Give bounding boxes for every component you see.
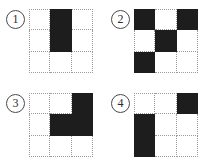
grid-cell-empty xyxy=(29,9,50,30)
grid-cell-empty xyxy=(29,93,50,114)
grid-cell-empty xyxy=(72,52,93,73)
option-panel-2[interactable]: 2 xyxy=(105,0,210,84)
grid-cell-empty xyxy=(72,9,93,30)
pattern-grid-3 xyxy=(29,93,93,157)
grid-cell-empty xyxy=(50,52,71,73)
grid-cell-filled xyxy=(72,93,93,114)
grid-cell-filled xyxy=(50,30,71,51)
option-number-1: 1 xyxy=(6,10,25,29)
answer-options-sheet: 1 2 3 4 xyxy=(0,0,210,168)
grid-cell-filled xyxy=(177,93,198,114)
grid-cell-filled xyxy=(134,136,155,157)
grid-cell-empty xyxy=(177,52,198,73)
grid-cell-filled xyxy=(72,114,93,135)
grid-cell-filled xyxy=(134,114,155,135)
grid-cell-empty xyxy=(177,114,198,135)
grid-cell-empty xyxy=(29,136,50,157)
grid-cell-empty xyxy=(177,136,198,157)
option-number-4: 4 xyxy=(111,94,130,113)
grid-cell-filled xyxy=(155,30,176,51)
grid-cell-empty xyxy=(50,136,71,157)
option-panel-3[interactable]: 3 xyxy=(0,84,105,168)
grid-cell-empty xyxy=(155,52,176,73)
grid-cell-filled xyxy=(134,9,155,30)
option-number-3: 3 xyxy=(6,94,25,113)
option-panel-4[interactable]: 4 xyxy=(105,84,210,168)
pattern-grid-4 xyxy=(134,93,198,157)
pattern-grid-1 xyxy=(29,9,93,73)
grid-cell-empty xyxy=(29,30,50,51)
grid-cell-empty xyxy=(72,30,93,51)
option-number-2: 2 xyxy=(111,10,130,29)
grid-cell-empty xyxy=(29,114,50,135)
grid-cell-empty xyxy=(29,52,50,73)
grid-cell-empty xyxy=(177,30,198,51)
grid-cell-empty xyxy=(72,136,93,157)
grid-cell-empty xyxy=(50,93,71,114)
grid-cell-filled xyxy=(177,9,198,30)
grid-cell-filled xyxy=(134,52,155,73)
grid-cell-empty xyxy=(155,136,176,157)
grid-cell-filled xyxy=(50,114,71,135)
grid-cell-empty xyxy=(134,30,155,51)
option-panel-1[interactable]: 1 xyxy=(0,0,105,84)
pattern-grid-2 xyxy=(134,9,198,73)
grid-cell-empty xyxy=(155,114,176,135)
grid-cell-empty xyxy=(155,9,176,30)
grid-cell-empty xyxy=(134,93,155,114)
grid-cell-filled xyxy=(50,9,71,30)
grid-cell-empty xyxy=(155,93,176,114)
